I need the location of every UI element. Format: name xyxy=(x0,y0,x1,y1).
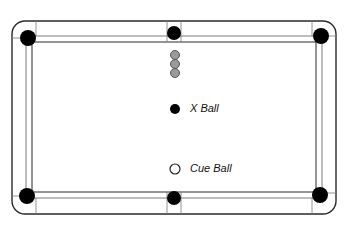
pocket-top-left xyxy=(20,30,36,46)
object-ball-3 xyxy=(171,69,180,78)
pocket-top-middle xyxy=(167,26,181,40)
pocket-bottom-left xyxy=(19,188,35,204)
pool-table-diagram xyxy=(0,0,349,228)
x-ball xyxy=(170,104,180,114)
object-ball-2 xyxy=(171,60,180,69)
pocket-bottom-middle xyxy=(167,191,181,205)
object-ball-rack xyxy=(171,51,180,78)
cue-ball-label: Cue Ball xyxy=(190,163,232,174)
pocket-top-right xyxy=(313,28,329,44)
pocket-bottom-right xyxy=(312,187,328,203)
cue-ball xyxy=(170,164,180,174)
table-outer-rail xyxy=(12,21,336,214)
rail-divider-lines xyxy=(12,21,336,214)
x-ball-label: X Ball xyxy=(190,103,219,114)
object-ball-1 xyxy=(171,51,180,60)
